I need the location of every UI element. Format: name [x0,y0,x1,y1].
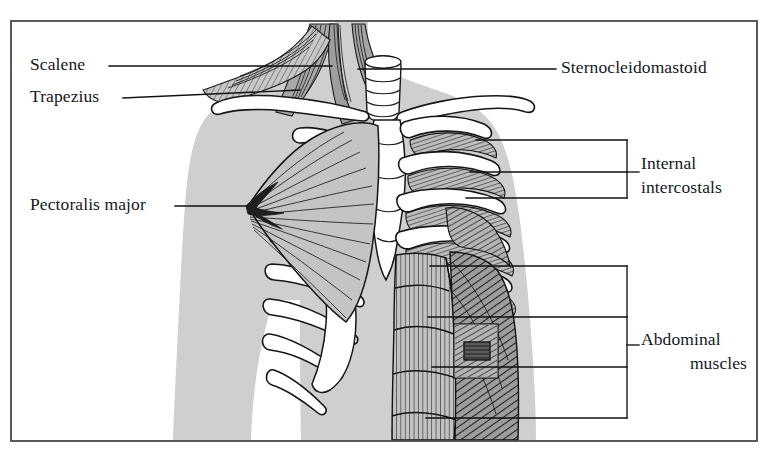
label-abdominal-muscles-line2: muscles [641,353,747,374]
label-internal-intercostals-line2: intercostals [641,177,722,198]
rectus-abdominis [392,253,457,440]
label-abdominal-muscles: Abdominal muscles [641,329,759,370]
label-abdominal-muscles-line1: Abdominal [641,329,759,350]
abdominal-inset-detail [454,324,498,378]
label-sternocleidomastoid: Sternocleidomastoid [561,57,707,78]
label-internal-intercostals: Internal intercostals [641,153,722,194]
label-pectoralis-major: Pectoralis major [30,194,146,215]
label-trapezius: Trapezius [30,86,99,107]
anatomy-figure: Scalene Trapezius Pectoralis major Stern… [0,0,771,472]
trachea [365,56,401,122]
label-scalene: Scalene [30,54,85,75]
label-internal-intercostals-line1: Internal [641,153,722,174]
